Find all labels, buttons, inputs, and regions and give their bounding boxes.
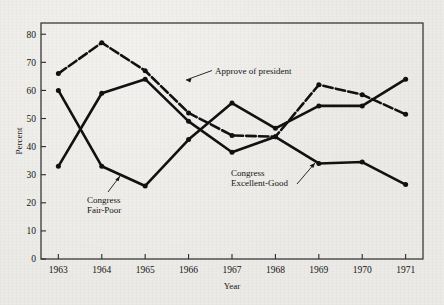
y-axis-tick-label: 50 bbox=[27, 114, 37, 124]
data-point bbox=[56, 164, 61, 169]
data-point bbox=[230, 150, 235, 155]
x-axis-tick-label: 1970 bbox=[353, 265, 372, 275]
data-point bbox=[360, 92, 365, 97]
data-point bbox=[403, 77, 408, 82]
data-point bbox=[403, 112, 408, 117]
x-axis: 196319641965196619671968196919701971 bbox=[49, 254, 416, 275]
plot-frame bbox=[41, 23, 423, 259]
annotation-arrowhead-congress-fair-poor bbox=[115, 176, 120, 181]
x-axis-tick-labels: 196319641965196619671968196919701971 bbox=[49, 265, 416, 275]
chart-canvas: 01020304050607080 1963196419651966196719… bbox=[0, 0, 444, 305]
x-axis-tick-label: 1971 bbox=[396, 265, 415, 275]
data-point bbox=[186, 110, 191, 115]
data-point bbox=[316, 103, 321, 108]
x-axis-tick-label: 1964 bbox=[92, 265, 111, 275]
annotation-arrowhead-congress-excellent-good bbox=[310, 163, 315, 168]
data-point bbox=[230, 133, 235, 138]
data-point bbox=[186, 119, 191, 124]
annotation-label-approve-of-president: Approve of president bbox=[215, 66, 292, 76]
x-axis-tick-label: 1963 bbox=[49, 265, 68, 275]
data-point bbox=[230, 101, 235, 106]
annotation-label-congress-fair-poor-line1: Congress bbox=[87, 195, 121, 205]
y-axis-tick-label: 20 bbox=[27, 198, 37, 208]
data-point bbox=[56, 71, 61, 76]
data-point bbox=[403, 182, 408, 187]
y-axis-tick-labels: 01020304050607080 bbox=[27, 30, 37, 265]
line-chart-figure: 01020304050607080 1963196419651966196719… bbox=[0, 0, 444, 305]
x-axis-tick-label: 1966 bbox=[179, 265, 198, 275]
x-axis-tick-label: 1967 bbox=[223, 265, 242, 275]
y-axis-tick-label: 30 bbox=[27, 170, 37, 180]
annotation-label-congress-excellent-good-line2: Excellent-Good bbox=[231, 178, 288, 188]
data-point bbox=[143, 77, 148, 82]
y-axis-tick-label: 80 bbox=[27, 30, 37, 40]
y-axis-tick-label: 10 bbox=[27, 226, 37, 236]
data-point bbox=[273, 126, 278, 131]
y-axis-ticks bbox=[41, 34, 46, 259]
annotation-label-congress-fair-poor-line2: Fair-Poor bbox=[87, 205, 121, 215]
y-axis-tick-label: 60 bbox=[27, 86, 37, 96]
y-axis: 01020304050607080 bbox=[27, 30, 47, 265]
y-axis-tick-label: 40 bbox=[27, 142, 37, 152]
x-axis-ticks bbox=[58, 254, 405, 259]
data-series-layer bbox=[56, 40, 408, 188]
y-axis-title: Percent bbox=[14, 127, 24, 154]
data-point bbox=[56, 88, 61, 93]
data-point bbox=[316, 161, 321, 166]
data-point bbox=[99, 40, 104, 45]
data-point bbox=[360, 160, 365, 165]
annotation-label-congress-excellent-good-line1: Congress bbox=[231, 168, 265, 178]
data-point bbox=[143, 183, 148, 188]
annotation-leader-approve-of-president bbox=[186, 71, 212, 81]
x-axis-tick-label: 1965 bbox=[136, 265, 155, 275]
data-point bbox=[186, 137, 191, 142]
x-axis-title: Year bbox=[224, 281, 241, 291]
data-point bbox=[273, 134, 278, 139]
data-point bbox=[316, 82, 321, 87]
data-point bbox=[99, 164, 104, 169]
x-axis-tick-label: 1969 bbox=[309, 265, 328, 275]
data-point bbox=[143, 68, 148, 73]
data-point bbox=[360, 103, 365, 108]
y-axis-tick-label: 70 bbox=[27, 58, 37, 68]
data-point bbox=[99, 91, 104, 96]
x-axis-tick-label: 1968 bbox=[266, 265, 285, 275]
y-axis-tick-label: 0 bbox=[31, 254, 36, 264]
